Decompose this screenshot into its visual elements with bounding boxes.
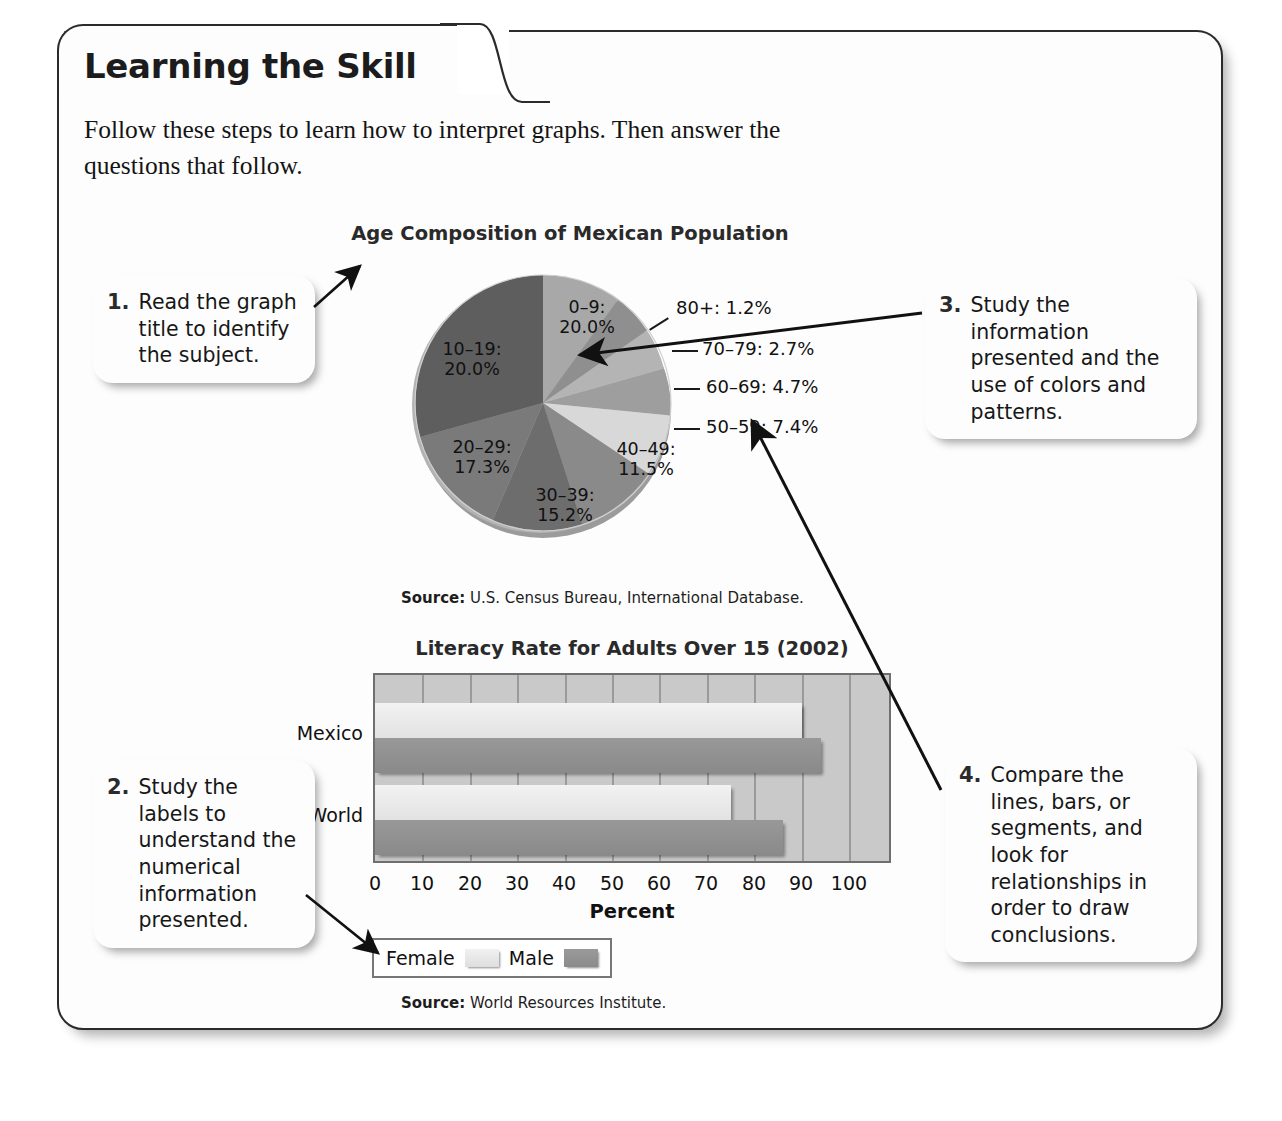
x-tick-20: 20 [447,872,493,894]
x-tick-40: 40 [541,872,587,894]
leader-line-70-79 [672,350,698,352]
leader-line-50-59 [674,428,700,430]
intro-text: Follow these steps to learn how to inter… [84,112,784,184]
pie-label-30-39: 30–39: 15.2% [513,486,617,525]
pie-outside-label-50-59: 50–59: 7.4% [706,416,818,437]
tab-curve [440,22,550,112]
x-tick-70: 70 [683,872,729,894]
callout-1-text: Read the graph title to identify the sub… [139,289,299,369]
pie-label-20-29: 20–29: 17.3% [430,438,534,477]
leader-line-60-69 [674,388,700,390]
x-tick-0: 0 [352,872,398,894]
callout-step-4: 4. Compare the lines, bars, or segments,… [945,748,1197,962]
bar-x-axis-title: Percent [373,900,891,923]
callout-2-text: Study the labels to understand the numer… [139,774,299,934]
x-tick-10: 10 [399,872,445,894]
legend-swatch-male [564,949,598,967]
bar-chart-title: Literacy Rate for Adults Over 15 (2002) [373,637,891,660]
callout-2-number: 2. [107,774,130,801]
x-tick-30: 30 [494,872,540,894]
pie-outside-label-70-79: 70–79: 2.7% [702,338,814,359]
pie-chart: 0–9: 20.0% 10–19: 20.0% 20–29: 17.3% 30–… [398,258,688,558]
callout-4-number: 4. [959,762,982,789]
legend-label-male: Male [509,947,554,969]
pie-label-10-19: 10–19: 20.0% [420,340,524,379]
pie-source-text: U.S. Census Bureau, International Databa… [470,589,804,607]
bar-chart-plot [373,673,891,863]
pie-chart-title: Age Composition of Mexican Population [290,222,850,245]
callout-1-number: 1. [107,289,130,316]
bar-mexico-female [375,703,802,738]
bar-category-label-mexico: Mexico [231,722,363,744]
bar-source-text: World Resources Institute. [470,994,666,1012]
pie-source: Source: U.S. Census Bureau, Internationa… [401,589,804,607]
bar-mexico-male [375,738,821,773]
pie-outside-label-80plus: 80+: 1.2% [676,297,772,318]
legend-swatch-female [465,949,499,967]
callout-step-1: 1. Read the graph title to identify the … [93,275,315,383]
x-tick-50: 50 [589,872,635,894]
gridline [849,675,851,861]
callout-step-2: 2. Study the labels to understand the nu… [93,760,315,948]
callout-3-number: 3. [939,292,962,319]
pie-label-40-49: 40–49: 11.5% [594,440,698,479]
pie-label-0-9: 0–9: 20.0% [542,298,632,337]
callout-step-3: 3. Study the information presented and t… [925,278,1197,439]
x-tick-100: 100 [826,872,872,894]
bar-world-male [375,820,783,855]
x-tick-80: 80 [731,872,777,894]
pie-source-label: Source: [401,589,465,607]
bar-source-label: Source: [401,994,465,1012]
x-tick-90: 90 [778,872,824,894]
bar-source: Source: World Resources Institute. [401,994,666,1012]
page-title: Learning the Skill [84,46,417,86]
callout-3-text: Study the information presented and the … [971,292,1181,425]
callout-4-text: Compare the lines, bars, or segments, an… [991,762,1181,948]
legend-label-female: Female [386,947,455,969]
bar-chart-legend: Female Male [372,938,612,978]
pie-outside-label-60-69: 60–69: 4.7% [706,376,818,397]
bar-world-female [375,785,731,820]
x-tick-60: 60 [636,872,682,894]
